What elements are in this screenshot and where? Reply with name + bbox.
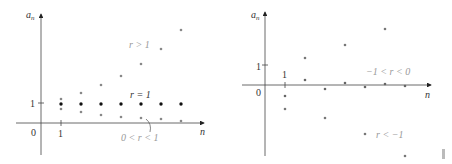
annotation-pointer	[146, 119, 151, 132]
series-neg1-lt-r-lt-0	[284, 79, 407, 98]
series-r-eq-1	[59, 102, 182, 105]
left-origin-label: 0	[31, 127, 36, 138]
right-xtick-label: 1	[282, 69, 287, 80]
margin-mark	[442, 149, 445, 159]
right-xlabel: n	[425, 89, 430, 100]
annotation-r-lt-neg1: r < −1	[376, 129, 403, 140]
annotation-neg1-lt-r-lt-0: −1 < r < 0	[366, 66, 410, 77]
left-ytick-label: 1	[30, 98, 35, 109]
annotation-0-lt-r-lt-1: 0 < r < 1	[121, 132, 158, 143]
left-ylabel: an	[26, 9, 35, 22]
left-xtick-label: 1	[58, 128, 63, 139]
left-xlabel: n	[200, 126, 205, 137]
right-origin-label: 0	[256, 87, 261, 98]
right-ylabel: an	[251, 9, 260, 22]
annotation-r-gt-1: r > 1	[129, 39, 150, 50]
annotation-r-eq-1: r = 1	[130, 89, 151, 100]
series-0-lt-r-lt-1	[60, 108, 183, 123]
right-ytick-label: 1	[256, 61, 261, 72]
right-chart: an n 0 1 1 −1 < r < 0 r < −1	[242, 9, 431, 157]
series-r-gt-1	[60, 29, 183, 101]
figure: an n 0 1 1 r > 1 r = 1 0 < r < 1	[0, 0, 452, 164]
left-chart: an n 0 1 1 r > 1 r = 1 0 < r < 1	[16, 9, 205, 155]
